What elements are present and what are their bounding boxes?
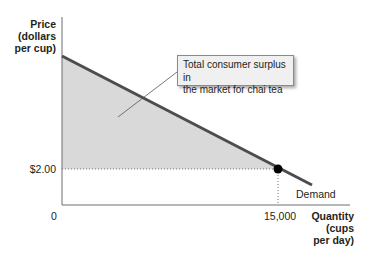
x-axis-label: Quantity (cups per day) xyxy=(296,210,354,246)
demand-label: Demand xyxy=(296,188,336,200)
origin-label: 0 xyxy=(51,210,57,222)
equilibrium-point xyxy=(274,165,283,174)
consumer-surplus-callout: Total consumer surplus in the market for… xyxy=(177,55,294,86)
callout-text-line: the market for chai tea xyxy=(183,84,293,97)
price-tick-label: $2.00 xyxy=(0,163,56,175)
x-axis-label-line: Quantity xyxy=(296,210,354,222)
x-axis-label-line: per day) xyxy=(296,234,354,246)
quantity-tick-label: 15,000 xyxy=(264,210,296,222)
y-axis-label-line: Price xyxy=(0,18,56,30)
x-axis-label-line: (cups xyxy=(296,222,354,234)
y-axis-label-line: per cup) xyxy=(0,42,56,54)
y-axis-label-line: (dollars xyxy=(0,30,56,42)
y-axis-label: Price (dollars per cup) xyxy=(0,18,56,54)
callout-text-line: Total consumer surplus in xyxy=(183,59,293,84)
